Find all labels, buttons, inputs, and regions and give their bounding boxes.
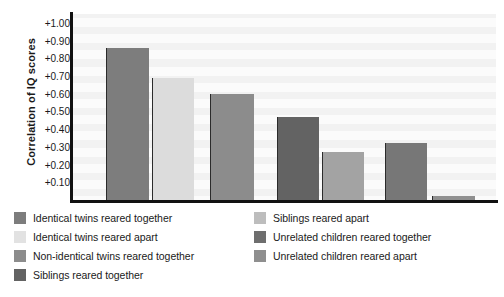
legend-swatch-icon-4 [254,212,266,224]
bar-1 [152,78,194,200]
legend-swatch-icon-5 [254,231,266,243]
y-axis-line [70,12,73,202]
legend-item-5[interactable]: Unrelated children reared together [254,227,504,246]
legend-item-3[interactable]: Siblings reared together [14,265,254,284]
legend-column-left: Identical twins reared togetherIdentical… [14,208,254,284]
bar-5 [385,143,427,200]
y-axis-tick-9: +0.10 [24,177,70,188]
legend-swatch-icon-2 [14,250,26,262]
bar-3 [277,117,319,200]
y-axis-tick-1: +0.90 [24,35,70,46]
legend-swatch-icon-0 [14,212,26,224]
legend-column-right: Siblings reared apartUnrelated children … [254,208,504,265]
bar-2 [210,94,254,200]
y-axis-tick-5: +0.50 [24,106,70,117]
legend-swatch-icon-6 [254,250,266,262]
y-axis-tick-8: +0.20 [24,159,70,170]
legend-swatch-icon-3 [14,269,26,281]
bars-layer [72,14,496,200]
legend-label-1: Identical twins reared apart [33,231,158,243]
y-axis-tick-2: +0.80 [24,53,70,64]
iq-correlation-bar-chart: Correlation of IQ scores +1.00+0.90+0.80… [0,0,504,297]
legend-label-3: Siblings reared together [33,269,143,281]
y-axis-tick-4: +0.60 [24,88,70,99]
legend-item-2[interactable]: Non-identical twins reared together [14,246,254,265]
legend-label-4: Siblings reared apart [273,212,369,224]
legend-item-6[interactable]: Unrelated children reared apart [254,246,504,265]
legend-item-1[interactable]: Identical twins reared apart [14,227,254,246]
legend-item-4[interactable]: Siblings reared apart [254,208,504,227]
bar-4 [322,152,364,200]
legend: Identical twins reared togetherIdentical… [0,208,504,297]
x-axis-line [70,200,498,203]
legend-swatch-icon-1 [14,231,26,243]
y-axis-tick-7: +0.30 [24,141,70,152]
legend-label-6: Unrelated children reared apart [273,250,417,262]
y-axis-tick-labels: +1.00+0.90+0.80+0.70+0.60+0.50+0.40+0.30… [24,14,70,200]
y-axis-tick-0: +1.00 [24,17,70,28]
legend-label-2: Non-identical twins reared together [33,250,194,262]
legend-label-5: Unrelated children reared together [273,231,431,243]
bar-0 [106,48,149,200]
legend-label-0: Identical twins reared together [33,212,172,224]
y-axis-tick-3: +0.70 [24,71,70,82]
y-axis-tick-6: +0.40 [24,124,70,135]
legend-item-0[interactable]: Identical twins reared together [14,208,254,227]
plot-area [72,14,496,200]
